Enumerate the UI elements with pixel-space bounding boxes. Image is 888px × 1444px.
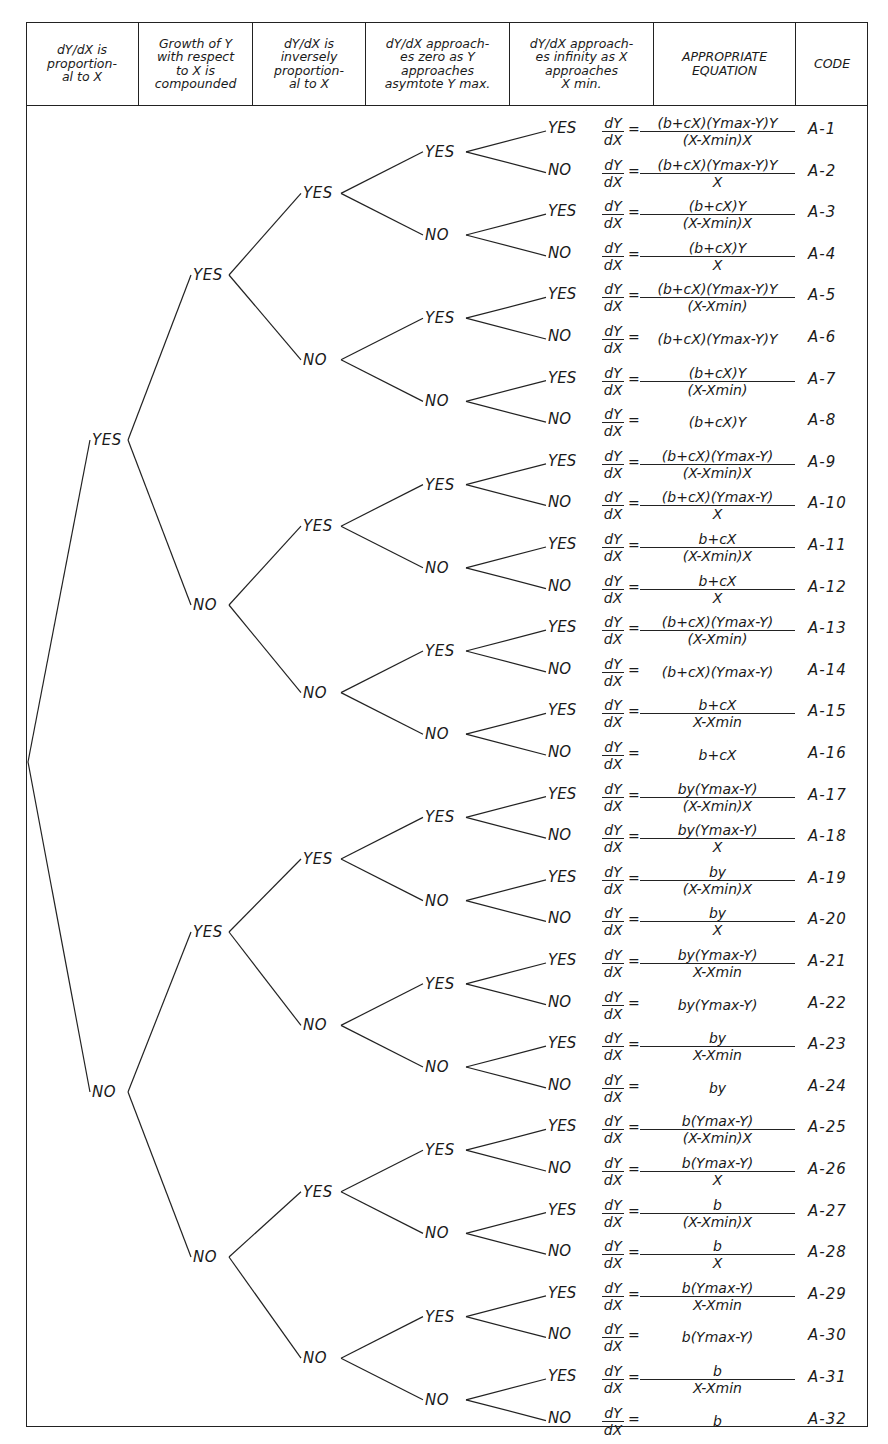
equals-sign: = <box>628 1411 640 1427</box>
equation-code: A-20 <box>808 910 847 928</box>
equals-sign: = <box>628 1119 640 1135</box>
equation-row: YESdYdX=b+cX(X-Xmin)XA-11 <box>0 531 888 572</box>
equals-sign: = <box>628 1369 640 1385</box>
equation-denominator: X <box>713 174 723 190</box>
equals-sign: = <box>628 412 640 428</box>
derivative-denominator: dX <box>604 174 622 190</box>
equation-row: YESdYdX=(b+cX)(Ymax-Y)(X-Xmin)A-13 <box>0 614 888 655</box>
derivative-numerator: dY <box>602 656 624 673</box>
derivative-denominator: dX <box>604 423 622 439</box>
derivative-numerator: dY <box>602 573 624 590</box>
derivative-numerator: dY <box>602 281 624 298</box>
derivative-denominator: dX <box>604 548 622 564</box>
equation-row: NOdYdX=bXA-28 <box>0 1238 888 1279</box>
equals-sign: = <box>628 1203 640 1219</box>
equation-fraction: (b+cX)(Ymax-Y)Y(X-Xmin)X <box>640 115 795 148</box>
derivative-numerator: dY <box>602 240 624 257</box>
equation-fraction: by(Ymax-Y)(X-Xmin)X <box>640 781 795 814</box>
derivative-fraction: dYdX <box>602 365 624 398</box>
equation-row: YESdYdX=byX-XminA-23 <box>0 1030 888 1071</box>
derivative-fraction: dYdX <box>602 573 624 606</box>
equals-sign: = <box>628 1244 640 1260</box>
leaf-answer: YES <box>548 285 576 303</box>
equals-sign: = <box>628 953 640 969</box>
equation-denominator: (X-Xmin) <box>688 298 748 314</box>
leaf-answer: NO <box>548 826 571 844</box>
equation-denominator: (X-Xmin)X <box>683 465 752 481</box>
equation-denominator: X <box>713 1255 723 1271</box>
derivative-numerator: dY <box>602 1155 624 1172</box>
derivative-denominator: dX <box>604 382 622 398</box>
derivative-fraction: dYdX <box>602 406 624 439</box>
equation-denominator: (X-Xmin) <box>688 382 748 398</box>
equation-denominator: X <box>713 506 723 522</box>
equation-fraction: (b+cX)(Ymax-Y)(X-Xmin)X <box>640 448 795 481</box>
equation-expression: by <box>640 1080 795 1096</box>
leaf-answer: NO <box>548 1159 571 1177</box>
equation-row: NOdYdX=(b+cX)(Ymax-Y)YA-6 <box>0 323 888 364</box>
equation-code: A-15 <box>808 702 847 720</box>
equation-denominator: X-Xmin <box>693 964 742 980</box>
derivative-numerator: dY <box>602 989 624 1006</box>
equation-denominator: X-Xmin <box>693 1297 742 1313</box>
equation-fraction: b(X-Xmin)X <box>640 1197 795 1230</box>
derivative-fraction: dYdX <box>602 157 624 190</box>
leaf-answer: YES <box>548 452 576 470</box>
equation-row: NOdYdX=b+cXXA-12 <box>0 573 888 614</box>
equation-row: NOdYdX=by(Ymax-Y)A-22 <box>0 989 888 1030</box>
equation-denominator: X <box>713 922 723 938</box>
equals-sign: = <box>628 662 640 678</box>
derivative-fraction: dYdX <box>602 448 624 481</box>
equation-row: NOdYdX=(b+cX)(Ymax-Y)XA-10 <box>0 489 888 530</box>
equation-row: YESdYdX=(b+cX)(Ymax-Y)Y(X-Xmin)XA-1 <box>0 115 888 156</box>
derivative-numerator: dY <box>602 614 624 631</box>
equation-row: YESdYdX=b(X-Xmin)XA-27 <box>0 1197 888 1238</box>
derivative-numerator: dY <box>602 1280 624 1297</box>
equation-denominator: (X-Xmin)X <box>683 548 752 564</box>
equation-fraction: by(Ymax-Y)X-Xmin <box>640 947 795 980</box>
equation-fraction: (b+cX)Y(X-Xmin)X <box>640 198 795 231</box>
equation-code: A-11 <box>808 536 847 554</box>
equals-sign: = <box>628 121 640 137</box>
equation-code: A-29 <box>808 1285 847 1303</box>
equals-sign: = <box>628 371 640 387</box>
derivative-denominator: dX <box>604 1255 622 1271</box>
derivative-denominator: dX <box>604 1380 622 1396</box>
equals-sign: = <box>628 828 640 844</box>
derivative-numerator: dY <box>602 947 624 964</box>
equation-code: A-18 <box>808 827 847 845</box>
equation-row: YESdYdX=bX-XminA-31 <box>0 1363 888 1404</box>
equation-code: A-26 <box>808 1160 847 1178</box>
equation-code: A-7 <box>808 370 836 388</box>
leaf-answer: NO <box>548 327 571 345</box>
leaf-answer: NO <box>548 1409 571 1427</box>
equation-denominator: (X-Xmin)X <box>683 132 752 148</box>
derivative-fraction: dYdX <box>602 1280 624 1313</box>
equation-row: NOdYdX=(b+cX)YXA-4 <box>0 240 888 281</box>
derivative-denominator: dX <box>604 465 622 481</box>
derivative-numerator: dY <box>602 822 624 839</box>
equation-code: A-8 <box>808 411 836 429</box>
derivative-numerator: dY <box>602 781 624 798</box>
derivative-fraction: dYdX <box>602 1197 624 1230</box>
equation-expression: (b+cX)Y <box>640 414 795 430</box>
equation-code: A-1 <box>808 120 836 138</box>
derivative-fraction: dYdX <box>602 1155 624 1188</box>
equation-fraction: bX <box>640 1238 795 1271</box>
derivative-numerator: dY <box>602 864 624 881</box>
leaf-answer: YES <box>548 1367 576 1385</box>
equation-code: A-31 <box>808 1368 847 1386</box>
equation-code: A-4 <box>808 245 836 263</box>
equation-row: YESdYdX=by(Ymax-Y)X-XminA-21 <box>0 947 888 988</box>
derivative-fraction: dYdX <box>602 115 624 148</box>
derivative-fraction: dYdX <box>602 614 624 647</box>
equation-numerator: by <box>640 905 795 922</box>
equals-sign: = <box>628 787 640 803</box>
equation-fraction: b+cXX-Xmin <box>640 697 795 730</box>
derivative-fraction: dYdX <box>602 781 624 814</box>
equation-denominator: (X-Xmin)X <box>683 798 752 814</box>
equation-code: A-9 <box>808 453 836 471</box>
equation-row: NOdYdX=bA-32 <box>0 1405 888 1444</box>
equation-code: A-21 <box>808 952 847 970</box>
equation-row: NOdYdX=b+cXA-16 <box>0 739 888 780</box>
